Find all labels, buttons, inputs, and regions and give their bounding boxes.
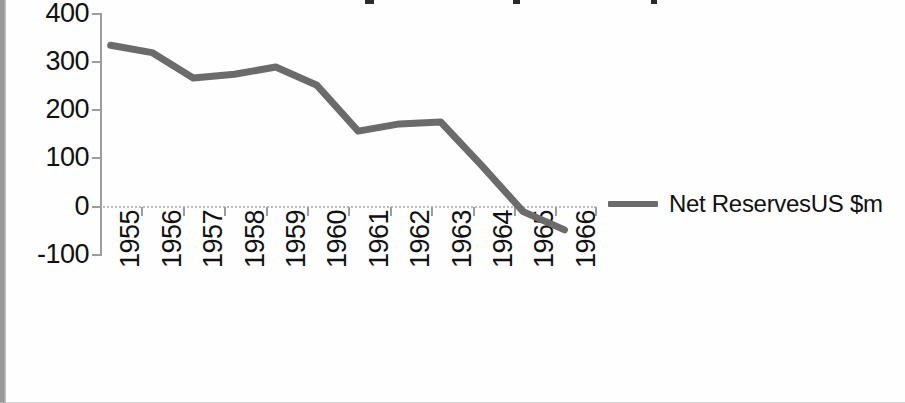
y-axis-label-400: 400 [11,0,89,27]
x-axis-label-1962: 1962 [407,210,434,268]
y-axis-line [100,13,102,256]
x-axis-label-1964: 1964 [490,210,517,268]
x-axis-label-1966: 1966 [573,210,600,268]
y-tick-400 [92,13,101,15]
y-tick-300 [92,61,101,63]
x-axis-label-1957: 1957 [200,210,227,268]
y-axis-label-200: 200 [11,96,89,123]
y-axis-label-0: 0 [11,193,89,220]
y-tick-200 [92,109,101,111]
x-tick-0 [100,207,102,216]
y-tick-100 [92,157,101,159]
cropped-title-fragment [651,0,657,4]
legend-label-net-reserves: Net ReservesUS $m [669,190,883,218]
x-axis-label-1965: 1965 [531,210,558,268]
x-axis-label-1960: 1960 [324,210,351,268]
y-tick--100 [92,254,101,256]
x-axis-label-1958: 1958 [242,210,269,268]
y-axis-label-100: 100 [11,144,89,171]
series-line-net-reserves [111,45,565,230]
y-axis-label--100: -100 [11,241,89,268]
cropped-title-fragment [365,0,374,4]
x-axis-label-1956: 1956 [159,210,186,268]
chart-legend: Net ReservesUS $m [608,190,883,218]
x-axis-label-1963: 1963 [449,210,476,268]
y-axis-label-300: 300 [11,48,89,75]
legend-line-swatch [608,201,658,207]
chart-container: 400 300 200 100 0 -100 1955 1956 1957 19… [0,0,905,403]
cropped-title-fragment [513,0,520,4]
x-axis-label-1959: 1959 [283,210,310,268]
x-axis-label-1955: 1955 [117,210,144,268]
y-axis-labels: 400 300 200 100 0 -100 [3,0,89,280]
x-axis-label-1961: 1961 [366,210,393,268]
